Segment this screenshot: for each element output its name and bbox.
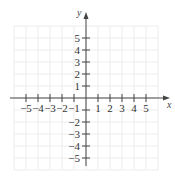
y-tick-label: 3 bbox=[75, 56, 81, 68]
y-tick-label: 4 bbox=[75, 44, 81, 56]
x-tick-label: −5 bbox=[20, 102, 32, 114]
x-tick-label: −4 bbox=[32, 102, 44, 114]
x-tick-label: −2 bbox=[56, 102, 68, 114]
x-tick-label: 5 bbox=[143, 102, 149, 114]
x-tick-label: 4 bbox=[131, 102, 137, 114]
x-tick-label: 3 bbox=[119, 102, 125, 114]
y-tick-label: −5 bbox=[68, 152, 80, 164]
x-axis-label: x bbox=[166, 99, 172, 110]
y-arrow-icon bbox=[84, 12, 89, 19]
x-tick-label: 1 bbox=[95, 102, 101, 114]
y-tick-label: 5 bbox=[75, 32, 81, 44]
x-tick-label: −3 bbox=[44, 102, 56, 114]
x-tick-label: 2 bbox=[107, 102, 113, 114]
y-tick-label: 2 bbox=[75, 68, 81, 80]
x-tick-label: −1 bbox=[68, 102, 80, 114]
y-axis bbox=[84, 12, 89, 166]
y-tick-label: −3 bbox=[68, 128, 80, 140]
y-tick-label: −2 bbox=[68, 116, 80, 128]
coordinate-plane: −5−4−3−2−11234554321−2−3−4−5 x y bbox=[0, 0, 175, 180]
y-tick-label: −4 bbox=[68, 140, 80, 152]
y-axis-label: y bbox=[76, 7, 82, 18]
y-tick-label: 1 bbox=[75, 80, 81, 92]
